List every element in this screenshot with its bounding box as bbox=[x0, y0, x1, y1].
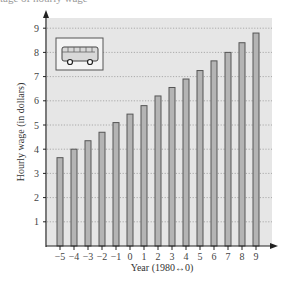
y-axis-title: Hourly wage (in dollars) bbox=[15, 83, 27, 182]
y-axis-arrow-icon bbox=[43, 10, 49, 18]
bar bbox=[253, 33, 259, 246]
bar bbox=[211, 61, 217, 246]
x-tick-label: 7 bbox=[226, 251, 231, 262]
x-tick-label: −4 bbox=[69, 251, 80, 262]
bar bbox=[57, 158, 63, 246]
y-tick-label: 5 bbox=[34, 120, 39, 131]
y-tick-label: 1 bbox=[34, 216, 39, 227]
bar bbox=[113, 123, 119, 246]
bar bbox=[127, 114, 133, 246]
y-tick-label: 2 bbox=[34, 192, 39, 203]
bar bbox=[197, 71, 203, 246]
x-tick-label: 6 bbox=[212, 251, 217, 262]
bar bbox=[155, 96, 161, 246]
bus-icon bbox=[56, 38, 103, 70]
x-tick-label: −5 bbox=[55, 251, 66, 262]
x-tick-label: −2 bbox=[97, 251, 108, 262]
x-tick-label: 9 bbox=[254, 251, 259, 262]
bar bbox=[141, 106, 147, 246]
x-tick-label: 2 bbox=[156, 251, 161, 262]
x-tick-labels: −5−4−3−2−10123456789 bbox=[55, 246, 259, 262]
x-tick-label: 4 bbox=[184, 251, 189, 262]
x-tick-label: 8 bbox=[240, 251, 245, 262]
y-tick-label: 8 bbox=[34, 47, 39, 58]
x-tick-label: −1 bbox=[111, 251, 122, 262]
x-tick-label: −3 bbox=[83, 251, 94, 262]
y-tick-label: 6 bbox=[34, 95, 39, 106]
bar bbox=[225, 52, 231, 246]
y-tick-label: 9 bbox=[34, 23, 39, 34]
bar bbox=[99, 132, 105, 246]
bar-chart: 123456789 −5−4−3−2−10123456789 Year (198… bbox=[0, 0, 283, 284]
y-tick-labels: 123456789 bbox=[34, 23, 46, 228]
bar bbox=[183, 79, 189, 246]
x-tick-label: 5 bbox=[198, 251, 203, 262]
bar bbox=[71, 149, 77, 246]
bar bbox=[239, 43, 245, 246]
bar bbox=[169, 87, 175, 246]
y-tick-label: 7 bbox=[34, 71, 39, 82]
x-tick-label: 3 bbox=[170, 251, 175, 262]
x-axis-title: Year (1980↔0) bbox=[131, 262, 194, 274]
y-tick-label: 3 bbox=[34, 168, 39, 179]
x-axis-arrow-icon bbox=[270, 243, 278, 249]
y-tick-label: 4 bbox=[34, 144, 39, 155]
bar bbox=[85, 141, 91, 246]
x-tick-label: 0 bbox=[128, 251, 133, 262]
x-tick-label: 1 bbox=[142, 251, 147, 262]
